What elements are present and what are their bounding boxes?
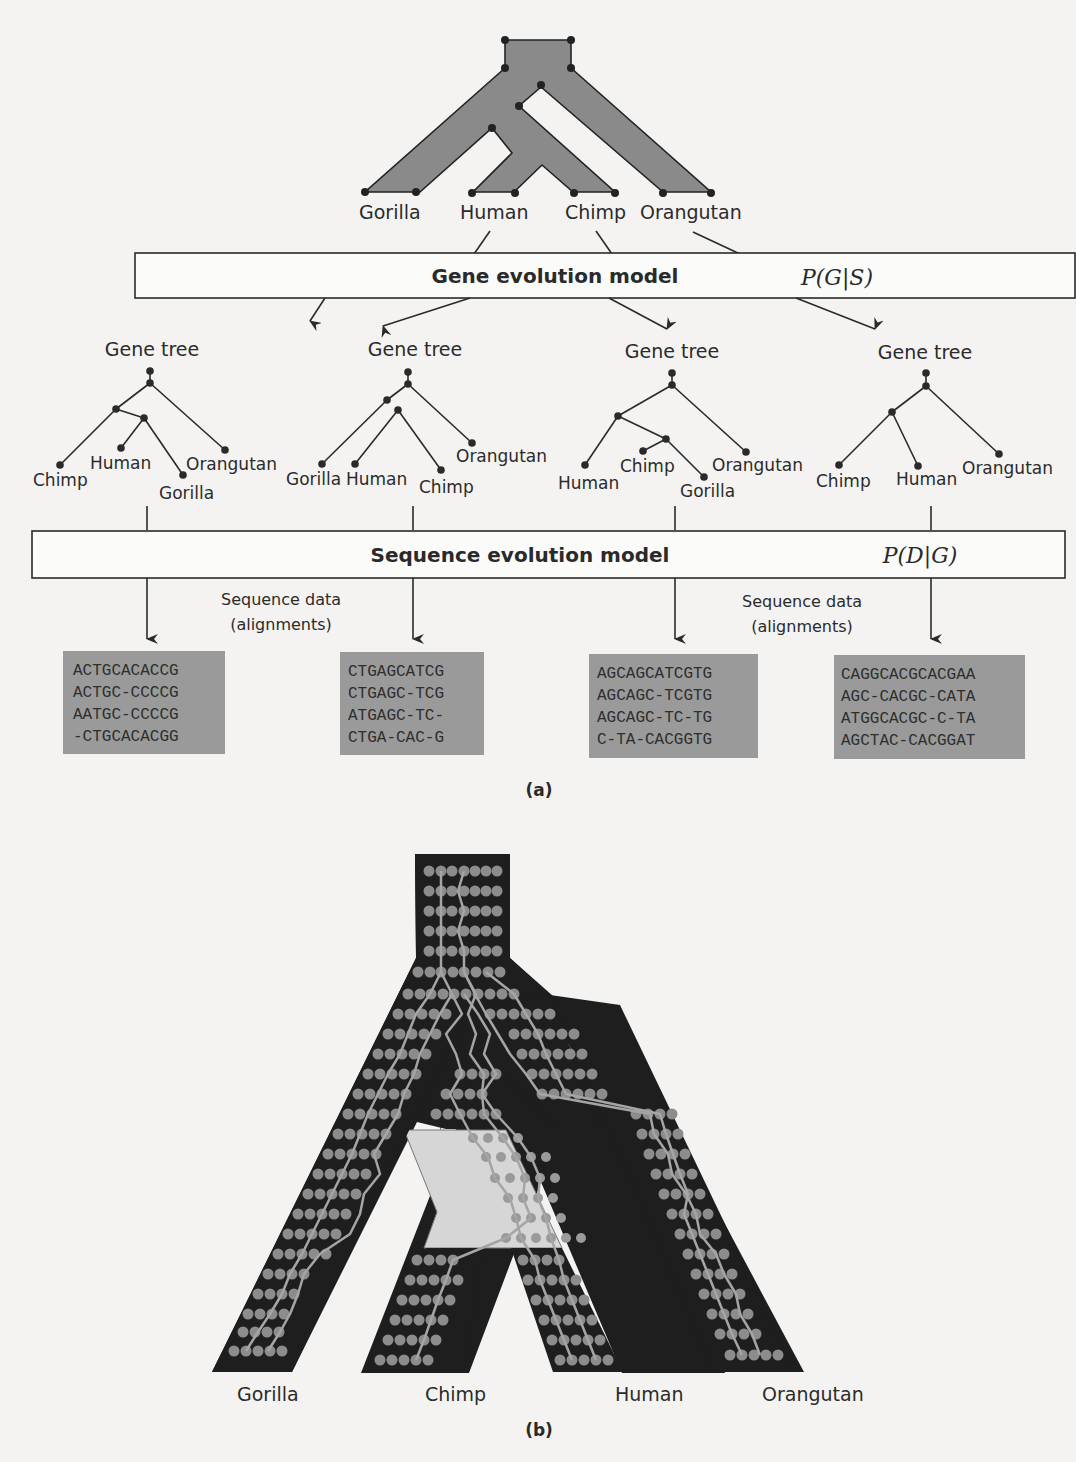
alignment-row: CTGA-CAC-G xyxy=(348,729,444,747)
leaf-label: Chimp xyxy=(620,456,675,476)
species-tree: Gorilla Human Chimp Orangutan xyxy=(359,36,742,223)
alignment-row: AGC-CACGC-CATA xyxy=(841,688,976,706)
species-label-orangutan: Orangutan xyxy=(640,201,742,223)
gene-model-probability: P(G|S) xyxy=(800,265,873,291)
gene-tree-4: Gene tree Chimp Human Orangutan xyxy=(816,341,1053,491)
gene-tree-3: Gene tree Human Chimp Gorilla Orangutan xyxy=(558,340,803,501)
alignment-row: ATGAGC-TC- xyxy=(348,707,444,725)
leaf-label: Human xyxy=(90,453,151,473)
genetree-to-seqmodel-lines xyxy=(147,506,931,530)
leaf-label: Human xyxy=(346,469,407,489)
leaf-label: Chimp xyxy=(33,470,88,490)
caption-a: (a) xyxy=(525,780,552,800)
sequence-evolution-model-box: Sequence evolution model P(D|G) xyxy=(32,531,1065,578)
caption-b: (b) xyxy=(525,1420,553,1440)
alignment-row: ACTGC-CCCCG xyxy=(73,684,179,702)
alignment-4: CAGGCACGCACGAA AGC-CACGC-CATA ATGGCACGC-… xyxy=(834,655,1025,759)
species-label-human: Human xyxy=(460,201,529,223)
leaf-label: Orangutan xyxy=(962,458,1053,478)
sequence-data-sublabel-1: (alignments) xyxy=(230,615,332,634)
pop-label-chimp: Chimp xyxy=(425,1383,486,1405)
alignment-row: AGCAGC-TC-TG xyxy=(597,709,712,727)
leaf-label: Chimp xyxy=(419,477,474,497)
alignment-row: AGCAGCATCGTG xyxy=(597,665,712,683)
species-label-chimp: Chimp xyxy=(565,201,626,223)
species-label-gorilla: Gorilla xyxy=(359,201,421,223)
sequence-data-label-2: Sequence data xyxy=(742,592,862,611)
alignment-3: AGCAGCATCGTG AGCAGC-TCGTG AGCAGC-TC-TG C… xyxy=(589,654,758,758)
leaf-label: Orangutan xyxy=(186,454,277,474)
alignment-row: AGCTAC-CACGGAT xyxy=(841,732,975,750)
gene-tree-title: Gene tree xyxy=(625,340,719,362)
species-tree-shape xyxy=(365,40,711,192)
alignment-1: ACTGCACACCG ACTGC-CCCCG AATGC-CCCCG -CTG… xyxy=(63,651,225,754)
gene-tree-title: Gene tree xyxy=(105,338,199,360)
alignment-row: C-TA-CACGGTG xyxy=(597,731,712,749)
leaf-label: Human xyxy=(896,469,957,489)
leaf-label: Human xyxy=(558,473,619,493)
alignment-2: CTGAGCATCG CTGAGC-TCG ATGAGC-TC- CTGA-CA… xyxy=(340,652,484,755)
leaf-label: Gorilla xyxy=(680,481,735,501)
phylogeny-figure: Gorilla Human Chimp Orangutan Gene evolu… xyxy=(0,0,1076,1462)
gene-model-label: Gene evolution model xyxy=(432,264,679,288)
gene-evolution-model-box: Gene evolution model P(G|S) xyxy=(135,253,1075,298)
leaf-label: Orangutan xyxy=(456,446,547,466)
gene-tree-2: Gene tree Gorilla Human Chimp Orangutan xyxy=(286,338,547,497)
gene-tree-1: Gene tree Chimp Human Gorilla Orangutan xyxy=(33,338,277,503)
leaf-label: Chimp xyxy=(816,471,871,491)
alignment-row: ATGGCACGC-C-TA xyxy=(841,710,976,728)
species-to-model-lines xyxy=(474,231,740,254)
alignment-row: ACTGCACACCG xyxy=(73,662,179,680)
pop-label-gorilla: Gorilla xyxy=(237,1383,299,1405)
sequence-model-label: Sequence evolution model xyxy=(371,543,670,567)
sequence-data-sublabel-2: (alignments) xyxy=(751,617,853,636)
sequence-model-probability: P(D|G) xyxy=(882,543,958,569)
alignment-row: CTGAGC-TCG xyxy=(348,685,444,703)
leaf-label: Gorilla xyxy=(159,483,214,503)
leaf-label: Gorilla xyxy=(286,469,341,489)
alignment-row: CAGGCACGCACGAA xyxy=(841,666,976,684)
pop-label-orangutan: Orangutan xyxy=(762,1383,864,1405)
alignment-row: CTGAGCATCG xyxy=(348,663,444,681)
sequence-data-label-1: Sequence data xyxy=(221,590,341,609)
pop-label-human: Human xyxy=(615,1383,684,1405)
alignment-row: -CTGCACACGG xyxy=(73,728,179,746)
model-to-genetree-arrows xyxy=(310,298,875,329)
gene-tree-title: Gene tree xyxy=(368,338,462,360)
alignment-row: AGCAGC-TCGTG xyxy=(597,687,712,705)
leaf-label: Orangutan xyxy=(712,455,803,475)
alignment-row: AATGC-CCCCG xyxy=(73,706,179,724)
gene-tree-title: Gene tree xyxy=(878,341,972,363)
